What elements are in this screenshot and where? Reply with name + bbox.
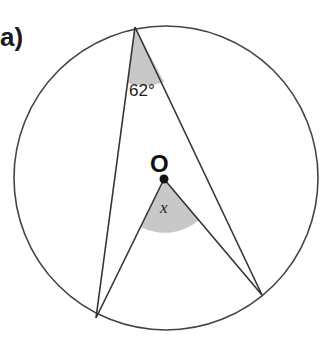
circle-theorem-diagram: a) 62° O x [0,0,320,348]
radius-right [164,179,262,295]
chord-apex-left [96,27,135,318]
angle-label: 62° [129,81,155,100]
central-angle-shade [141,180,199,233]
radius-left [96,179,164,318]
center-label: O [150,150,169,177]
part-label: a) [0,22,23,52]
unknown-angle-label: x [159,198,168,217]
